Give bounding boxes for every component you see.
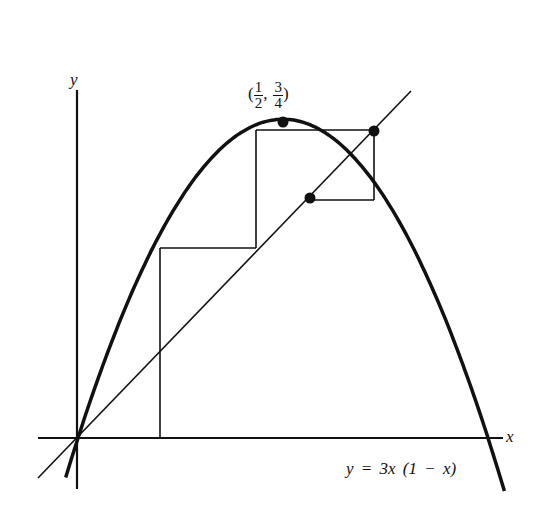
peak-x-fraction: 12 [254, 80, 264, 111]
x-axis-label: x [506, 427, 514, 447]
peak-label: (12,34) [248, 80, 289, 111]
logistic-map-cobweb-diagram: y x (12,34) y = 3x (1 − x) [0, 0, 546, 514]
peak-point-dot [278, 117, 289, 128]
equation-label: y = 3x (1 − x) [346, 459, 456, 479]
peak-y-fraction: 34 [273, 80, 283, 111]
y-axis-label: y [70, 70, 78, 90]
cobweb-point-dot [305, 193, 316, 204]
parabola-curve [66, 119, 505, 491]
cobweb-path [160, 130, 374, 438]
diagram-svg [0, 0, 546, 514]
cobweb-point-dot [369, 126, 380, 137]
diagonal-line [38, 91, 411, 478]
